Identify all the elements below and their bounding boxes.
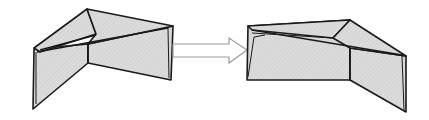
after-fold-figure (247, 20, 406, 112)
right-arrow-icon (173, 38, 247, 63)
side-panel (350, 48, 406, 112)
before-fold-figure (33, 9, 173, 109)
diagram-canvas (0, 0, 429, 120)
fold-diagram (0, 0, 429, 120)
left-panel (33, 44, 88, 109)
